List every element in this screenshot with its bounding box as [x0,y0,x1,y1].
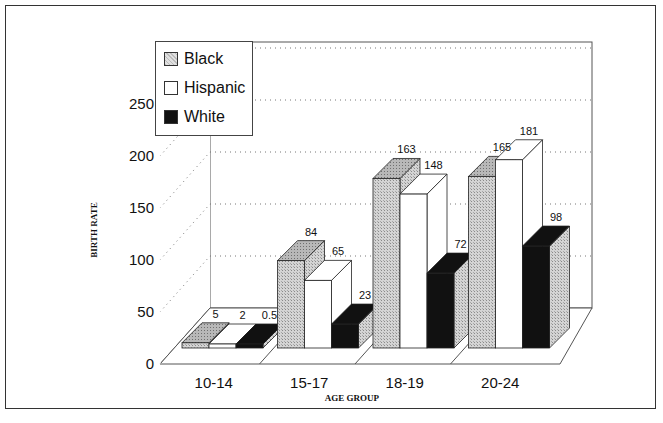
legend: Black Hispanic White [155,41,253,136]
value-label: 148 [424,159,442,171]
value-label: 2 [239,309,245,321]
value-label: 23 [359,289,371,301]
y-tick-label: 100 [129,251,154,268]
legend-label-black: Black [184,50,223,68]
legend-item-hispanic: Hispanic [164,79,245,97]
value-label: 98 [550,211,562,223]
legend-label-hispanic: Hispanic [184,79,245,97]
x-tick-label: 10-14 [195,374,233,391]
value-label: 181 [520,125,538,137]
y-tick-label: 50 [137,303,154,320]
value-label: 165 [493,141,511,153]
y-tick-label: 200 [129,147,154,164]
value-label: 5 [212,308,218,320]
value-label: 65 [332,245,344,257]
value-label: 163 [397,143,415,155]
y-axis-title: BIRTH RATE [89,202,99,257]
legend-item-white: White [164,108,225,126]
x-tick-label: 20-24 [481,374,519,391]
y-tick-label: 250 [129,95,154,112]
bar-white-20-24 [523,226,570,348]
legend-swatch-white [164,110,178,124]
bar-white-18-19 [427,253,474,348]
value-label: 84 [305,226,317,238]
legend-item-black: Black [164,50,223,68]
birth-rate-3d-bar-chart: 05010015020025010-1415-1718-1920-24AGE G… [0,0,663,423]
legend-swatch-black [164,52,178,66]
value-label: 0.5 [262,309,277,321]
x-tick-label: 18-19 [386,374,424,391]
y-tick-label: 0 [146,355,154,372]
x-tick-label: 15-17 [290,374,328,391]
value-label: 72 [454,238,466,250]
legend-swatch-hispanic [164,81,178,95]
x-axis-title: AGE GROUP [325,393,380,403]
y-tick-label: 150 [129,199,154,216]
legend-label-white: White [184,108,225,126]
